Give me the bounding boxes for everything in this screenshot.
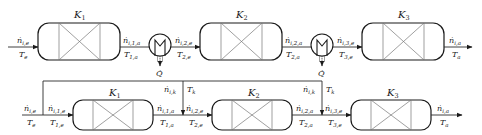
top-stream-2a: ṅi,2,a T2,a: [282, 36, 311, 60]
top-outlet-stream: ṅi,a Ta: [444, 36, 472, 60]
temp-label: T1,a: [124, 50, 138, 60]
heat-exchanger-icon: [149, 34, 171, 56]
reactor1-inlet-flow-label: ṅi,1,e: [48, 104, 66, 114]
reactor-label: K3: [386, 87, 399, 100]
top-stream-3e: ṅi,3,e T3,e: [333, 36, 362, 60]
top-heat-exchanger-2: Q̇: [311, 34, 333, 78]
top-stream-1a: ṅi,1,a T1,a: [120, 36, 149, 60]
heat-exchanger-icon: [311, 34, 333, 56]
quench2-flow-label: ṅi,k: [303, 85, 316, 95]
quench1-flow-label: ṅi,k: [164, 85, 177, 95]
outlet1-flow-label: ṅi,1,a: [157, 104, 174, 114]
bottom-reactor-k3: K3: [351, 87, 431, 130]
top-reactor-k1: K1: [38, 9, 120, 60]
temp-label: T2,e: [177, 50, 192, 60]
bottom-stream-2: ṅi,2,a T2,a ṅi,k Tk ṅi,3,e T3,e: [292, 81, 351, 128]
reactor-label: K2: [235, 9, 248, 22]
bottom-stream-1: ṅi,1,a T1,a ṅi,k Tk ṅi,2,e T2,e: [153, 81, 212, 128]
top-inlet-temp-label: Te: [19, 50, 28, 60]
reactor-label: K1: [73, 9, 86, 22]
inlet-temp-label: Te: [27, 118, 36, 128]
heat-duty-label: Q̇: [156, 69, 163, 78]
bottom-outlet-stream: ṅi,a Ta: [431, 104, 462, 128]
temp-label: T2,a: [286, 50, 300, 60]
flow-label: ṅi,1,a: [123, 36, 140, 46]
temp-label: T3,e: [339, 50, 354, 60]
reactor-label: K2: [247, 87, 260, 100]
outlet2-flow-label: ṅi,2,a: [296, 104, 313, 114]
flow-label: ṅi,2,a: [285, 36, 302, 46]
top-heat-exchanger-1: Q̇: [149, 34, 171, 78]
reactor-label: K3: [397, 9, 410, 22]
quench2-temp-label: Tk: [326, 85, 335, 95]
bottom-row-quench-cascade: ṅi,e Te ṅi,1,e T1,e K1 ṅi,1,a T1,a ṅi,k …: [22, 81, 462, 130]
flow-label: ṅi,3,e: [337, 36, 355, 46]
heat-duty-label: Q̇: [318, 69, 325, 78]
top-reactor-k2: K2: [200, 9, 282, 60]
flow-label: ṅi,a: [437, 104, 449, 114]
top-reactor-k3: K3: [362, 9, 444, 60]
process-flow-diagram: ṅi,e Te K1 ṅi,1,a T1,a Q̇: [0, 0, 482, 135]
top-stream-2e: ṅi,2,e T2,e: [171, 36, 200, 60]
flow-label: ṅi,a: [449, 36, 461, 46]
inlet-flow-label: ṅi,e: [24, 104, 37, 114]
top-inlet-stream: ṅi,e Te: [8, 36, 38, 60]
flow-label: ṅi,2,e: [175, 36, 193, 46]
outlet2-temp-label: T2,a: [299, 118, 313, 128]
bottom-inlet-stream: ṅi,e Te ṅi,1,e T1,e: [22, 104, 73, 128]
temp-label: Ta: [452, 50, 461, 60]
top-inlet-flow-label: ṅi,e: [17, 36, 30, 46]
reactor2-inlet-temp-label: T2,e: [189, 118, 204, 128]
outlet1-temp-label: T1,a: [160, 118, 174, 128]
reactor3-inlet-flow-label: ṅi,3,e: [325, 104, 343, 114]
temp-label: Ta: [440, 118, 449, 128]
reactor3-inlet-temp-label: T3,e: [328, 118, 343, 128]
reactor2-inlet-flow-label: ṅi,2,e: [186, 104, 204, 114]
quench1-temp-label: Tk: [187, 85, 196, 95]
reactor1-inlet-temp-label: T1,e: [50, 118, 65, 128]
top-row-intercooled-cascade: ṅi,e Te K1 ṅi,1,a T1,a Q̇: [8, 9, 472, 78]
bottom-reactor-k1: K1: [73, 87, 153, 130]
reactor-label: K1: [108, 87, 121, 100]
bottom-reactor-k2: K2: [212, 87, 292, 130]
